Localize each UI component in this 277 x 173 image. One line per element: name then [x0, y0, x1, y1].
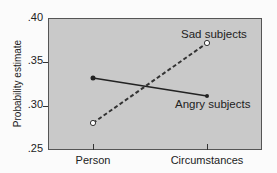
sad-marker-circumstances — [204, 40, 209, 45]
sad-marker-person — [90, 120, 95, 125]
series-lines — [0, 0, 277, 173]
angry-line — [93, 78, 207, 96]
angry-marker-person — [91, 76, 96, 81]
angry-subjects-label: Angry subjects — [175, 98, 250, 110]
sad-subjects-label: Sad subjects — [181, 28, 247, 40]
sad-line — [93, 43, 207, 123]
